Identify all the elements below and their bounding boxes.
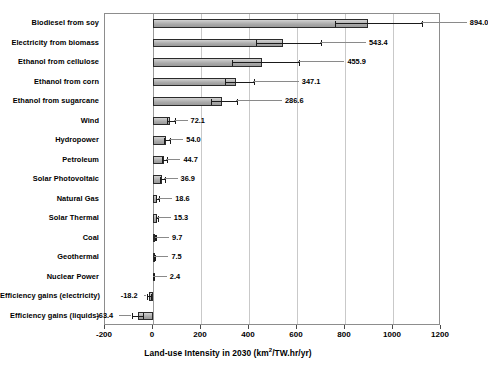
error-bar-cap-low [132,313,133,319]
plot-area [104,13,440,325]
bar-row [105,190,439,210]
value-label: 2.4 [170,267,180,287]
leader-line [155,237,169,238]
x-tick-label-800: 800 [324,330,364,339]
error-bar [232,62,299,63]
value-label: 15.3 [174,208,188,228]
value-label: 455.9 [347,52,366,72]
error-bar-cap-high [151,294,152,300]
x-tick-1200 [440,325,441,329]
error-bar [256,43,321,44]
category-label-efficiency-gains-electricity: Efficiency gains (electricity) [0,286,99,306]
x-axis-title: Land-use Intensity in 2030 (km2/TW.hr/yr… [0,347,456,358]
error-bar-cap-low [335,21,336,27]
leader-line [169,139,183,140]
leader-line [119,315,131,316]
category-label-biodiesel-from-soy: Biodiesel from soy [0,13,99,33]
error-bar-cap-high [254,79,255,85]
error-bar-cap-high [143,313,144,319]
bar-row [105,131,439,151]
x-tick-1000 [392,325,393,329]
error-bar-cap-low [211,99,212,105]
error-bar [225,82,254,83]
category-label-hydropower: Hydropower [0,130,99,150]
error-bar-cap-high [156,235,157,241]
category-label-wind: Wind [0,111,99,131]
x-tick--200 [104,325,105,329]
bar-row [105,53,439,73]
bar-row [105,248,439,268]
category-label-coal: Coal [0,228,99,248]
bar-row [105,209,439,229]
bar-row [105,34,439,54]
value-label: 543.4 [369,33,388,53]
x-tick-800 [344,325,345,329]
error-bar-cap-high [321,40,322,46]
x-tick-label-400: 400 [228,330,268,339]
value-label: 894.0 [470,13,488,33]
category-label-solar-thermal: Solar Thermal [0,208,99,228]
leader-line [153,276,167,277]
value-label: 72.1 [191,111,205,131]
leader-line [157,217,171,218]
value-label: 9.7 [172,228,182,248]
error-bar [164,140,171,141]
error-bar-cap-high [167,157,168,163]
bar-row [105,112,439,132]
x-tick-0 [152,325,153,329]
leader-line [421,22,467,23]
bar [153,78,236,87]
error-bar [132,316,143,317]
value-label: 347.1 [302,72,321,92]
category-label-efficiency-gains-liquids: Efficiency gains (liquids) [0,306,99,326]
x-tick-label-1200: 1200 [420,330,460,339]
category-label-electricity-from-biomass: Electricity from biomass [0,33,99,53]
bar-row [105,14,439,34]
bar-row [105,229,439,249]
error-bar-cap-high [175,118,176,124]
category-label-ethanol-from-sugarcane: Ethanol from sugarcane [0,91,99,111]
value-label: 44.7 [183,150,197,170]
bar-row [105,73,439,93]
x-tick-200 [200,325,201,329]
bar-row [105,268,439,288]
leader-line [158,198,172,199]
error-bar-cap-high [165,177,166,183]
x-tick-label-0: 0 [132,330,172,339]
category-label-geothermal: Geothermal [0,247,99,267]
category-label-nuclear-power: Nuclear Power [0,267,99,287]
error-bar-cap-high [159,196,160,202]
bar-row [105,151,439,171]
x-axis-title-before: Land-use Intensity in 2030 (km [144,348,268,358]
x-axis-title-after: /TW.hr/yr) [272,348,311,358]
x-tick-label-200: 200 [180,330,220,339]
bar-row [105,307,439,327]
error-bar-cap-high [158,216,159,222]
leader-line [164,178,178,179]
error-bar-cap-low [160,177,161,183]
error-bar-cap-low [156,196,157,202]
x-tick-400 [248,325,249,329]
leader-line [154,256,168,257]
value-label: -63.4 [96,306,113,326]
leader-line [320,42,366,43]
category-label-ethanol-from-corn: Ethanol from corn [0,72,99,92]
bar-row [105,170,439,190]
error-bar-cap-low [232,60,233,66]
value-label: -18.2 [121,286,138,306]
value-label: 18.6 [175,189,189,209]
x-tick-600 [296,325,297,329]
error-bar-cap-high [237,99,238,105]
x-tick-label--200: -200 [84,330,124,339]
category-label-petroleum: Petroleum [0,150,99,170]
error-bar-cap-low [225,79,226,85]
leader-line [253,81,299,82]
error-bar-cap-low [256,40,257,46]
error-bar-cap-high [299,60,300,66]
error-bar-cap-low [147,294,148,300]
bar-row [105,287,439,307]
error-bar [167,121,174,122]
category-label-natural-gas: Natural Gas [0,189,99,209]
x-tick-label-1000: 1000 [372,330,412,339]
category-label-solar-photovoltaic: Solar Photovoltaic [0,169,99,189]
